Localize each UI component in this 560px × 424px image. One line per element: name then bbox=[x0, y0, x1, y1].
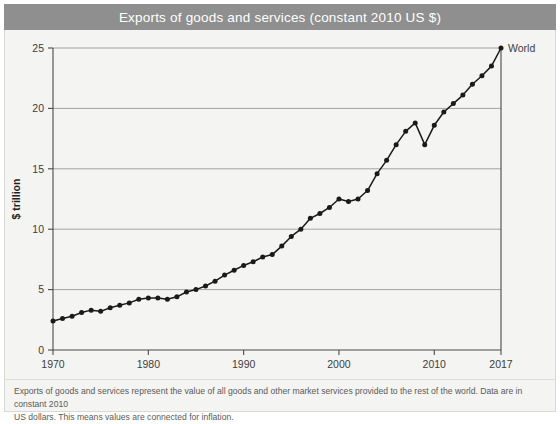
data-point bbox=[70, 314, 75, 319]
data-point bbox=[346, 199, 351, 204]
data-point bbox=[279, 244, 284, 249]
y-tick-label: 15 bbox=[32, 163, 44, 175]
chart-title-bar: Exports of goods and services (constant … bbox=[4, 4, 556, 30]
data-point bbox=[136, 297, 141, 302]
x-tick-label: 2000 bbox=[327, 358, 351, 370]
data-point bbox=[241, 263, 246, 268]
data-point bbox=[232, 268, 237, 273]
data-point bbox=[213, 279, 218, 284]
data-point bbox=[403, 129, 408, 134]
data-point bbox=[394, 142, 399, 147]
y-tick-label: 25 bbox=[32, 42, 44, 54]
series-point-group bbox=[51, 46, 504, 324]
caption-line-1: Exports of goods and services represent … bbox=[14, 385, 546, 411]
x-tick-group: 197019801990200020102017 bbox=[41, 350, 513, 370]
data-point bbox=[117, 303, 122, 308]
data-point bbox=[155, 296, 160, 301]
data-point bbox=[384, 158, 389, 163]
x-tick-label: 1990 bbox=[232, 358, 256, 370]
data-point bbox=[441, 110, 446, 115]
data-point bbox=[108, 305, 113, 310]
data-point bbox=[60, 316, 65, 321]
series-label-world: World bbox=[508, 42, 535, 54]
data-point bbox=[193, 287, 198, 292]
y-tick-label: 20 bbox=[32, 102, 44, 114]
x-tick-label: 2017 bbox=[489, 358, 513, 370]
data-point bbox=[317, 211, 322, 216]
data-point bbox=[289, 234, 294, 239]
page-title: Exports of goods and services (constant … bbox=[119, 10, 441, 25]
data-point bbox=[499, 46, 504, 51]
data-point bbox=[79, 310, 84, 315]
data-point bbox=[451, 101, 456, 106]
y-tick-label: 10 bbox=[32, 223, 44, 235]
data-point bbox=[479, 73, 484, 78]
data-point bbox=[270, 252, 275, 257]
data-point bbox=[260, 254, 265, 259]
data-point bbox=[413, 120, 418, 125]
x-tick-label: 2010 bbox=[423, 358, 447, 370]
chart-caption: Exports of goods and services represent … bbox=[14, 385, 546, 424]
data-point bbox=[184, 290, 189, 295]
data-point bbox=[251, 259, 256, 264]
y-tick-group: 0510152025 bbox=[32, 42, 53, 356]
data-point bbox=[174, 294, 179, 299]
data-point bbox=[298, 227, 303, 232]
data-point bbox=[327, 205, 332, 210]
y-tick-label: 5 bbox=[38, 283, 44, 295]
y-axis-title: $ trillion bbox=[10, 179, 22, 220]
data-point bbox=[127, 300, 132, 305]
data-point bbox=[422, 142, 427, 147]
data-point bbox=[432, 123, 437, 128]
line-chart-svg: 0510152025 197019801990200020102017 $ tr… bbox=[4, 30, 556, 378]
data-point bbox=[89, 308, 94, 313]
series-line-world bbox=[53, 48, 501, 321]
data-point bbox=[308, 216, 313, 221]
data-point bbox=[203, 283, 208, 288]
data-point bbox=[51, 319, 56, 324]
data-point bbox=[165, 297, 170, 302]
data-point bbox=[375, 171, 380, 176]
data-point bbox=[336, 197, 341, 202]
x-tick-label: 1980 bbox=[137, 358, 161, 370]
x-tick-label: 1970 bbox=[41, 358, 65, 370]
data-point bbox=[356, 197, 361, 202]
data-point bbox=[460, 93, 465, 98]
caption-line-2: US dollars. This means values are connec… bbox=[14, 411, 546, 424]
data-point bbox=[222, 273, 227, 278]
data-point bbox=[365, 188, 370, 193]
data-point bbox=[489, 64, 494, 69]
data-point bbox=[146, 296, 151, 301]
plot-area: 0510152025 197019801990200020102017 $ tr… bbox=[4, 30, 556, 378]
caption-divider bbox=[5, 379, 555, 380]
data-point bbox=[98, 309, 103, 314]
y-tick-label: 0 bbox=[38, 344, 44, 356]
data-point bbox=[470, 82, 475, 87]
